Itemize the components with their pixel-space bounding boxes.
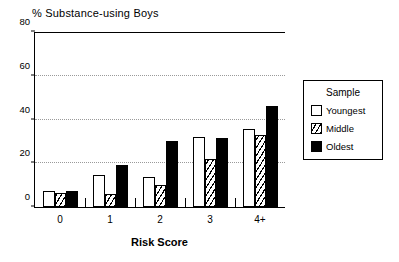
bar-0-oldest: [66, 191, 78, 207]
bar-0-youngest: [43, 191, 55, 207]
hatched-square-icon: [311, 123, 322, 134]
x-tick-label-2: 2: [157, 214, 163, 225]
legend-entry-youngest: Youngest: [311, 105, 365, 116]
bar-2-oldest: [166, 141, 178, 207]
x-axis-title: Risk Score: [34, 236, 285, 248]
x-tick-label-4+: 4+: [254, 214, 265, 225]
legend-label-oldest: Oldest: [326, 141, 353, 152]
bar-1-youngest: [93, 175, 105, 207]
legend: Sample YoungestMiddleOldest: [303, 80, 383, 160]
legend-label-middle: Middle: [326, 123, 354, 134]
bar-2-middle: [155, 185, 167, 207]
chart-title: % Substance-using Boys: [32, 7, 159, 19]
x-tick-label-0: 0: [57, 214, 63, 225]
y-tick-label-80: 80: [19, 16, 30, 27]
bar-4+-oldest: [266, 106, 278, 207]
bar-1-oldest: [116, 165, 128, 207]
y-tick-label-40: 40: [19, 103, 30, 114]
chart-figure: % Substance-using Boys 020406080 01234+ …: [0, 0, 399, 262]
y-tick-label-60: 60: [19, 59, 30, 70]
bar-1-middle: [105, 194, 117, 207]
bar-group-0: [35, 32, 85, 207]
bar-group-2: [135, 32, 185, 207]
bar-group-1: [85, 32, 135, 207]
white-square-icon: [311, 105, 322, 116]
bar-2-youngest: [143, 177, 155, 207]
bar-3-middle: [205, 159, 217, 207]
x-tick-label-3: 3: [207, 214, 213, 225]
plot-area: 020406080 01234+: [34, 32, 285, 208]
bar-0-middle: [55, 193, 67, 207]
x-tick-label-1: 1: [107, 214, 113, 225]
bar-3-youngest: [193, 137, 205, 207]
y-tick-label-0: 0: [25, 191, 30, 202]
bar-4+-youngest: [243, 129, 255, 207]
legend-entry-oldest: Oldest: [311, 141, 353, 152]
bar-group-3: [185, 32, 235, 207]
bar-4+-middle: [255, 135, 267, 207]
legend-title: Sample: [304, 87, 382, 98]
legend-entry-middle: Middle: [311, 123, 354, 134]
y-tick-label-20: 20: [19, 147, 30, 158]
bar-3-oldest: [216, 138, 228, 207]
legend-label-youngest: Youngest: [326, 105, 365, 116]
bar-group-4+: [235, 32, 285, 207]
black-square-icon: [311, 141, 322, 152]
